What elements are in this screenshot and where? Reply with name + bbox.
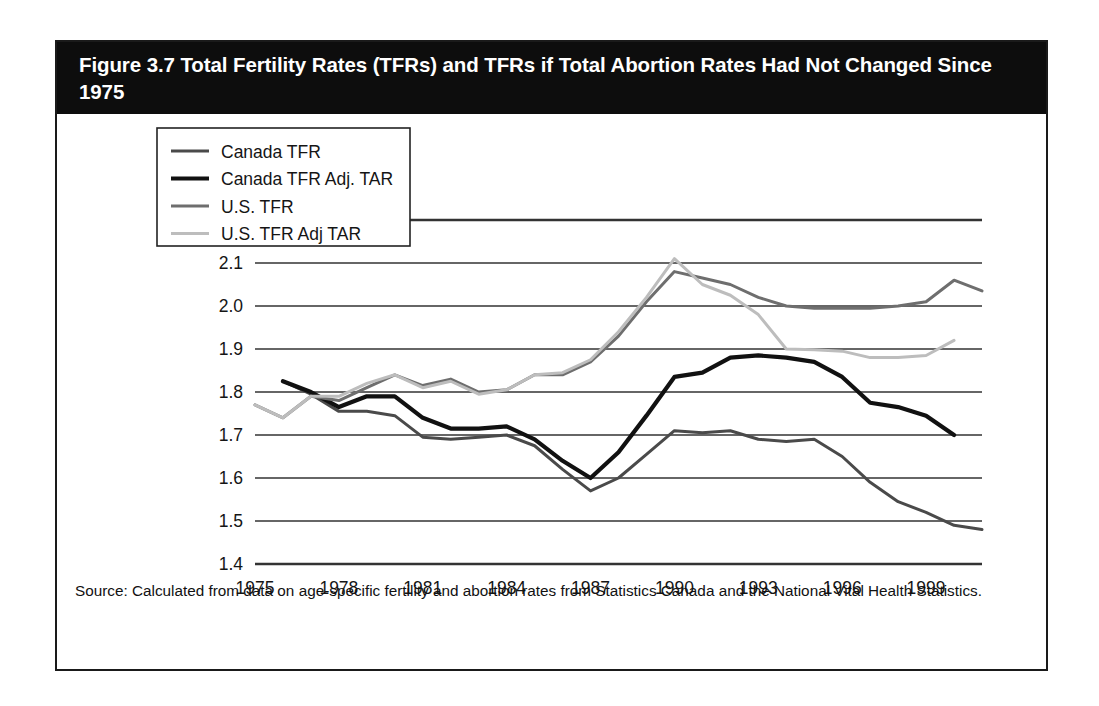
y-tick-label: 1.5: [219, 511, 243, 531]
legend-label: Canada TFR Adj. TAR: [221, 169, 393, 189]
figure-title-band: Figure 3.7 Total Fertility Rates (TFRs) …: [57, 42, 1046, 114]
chart-legend: Canada TFRCanada TFR Adj. TARU.S. TFRU.S…: [157, 128, 410, 246]
y-axis-tick-labels: 1.41.51.61.71.81.92.02.12.2: [219, 210, 244, 574]
series-line: [283, 355, 954, 478]
data-series-group: [255, 259, 982, 530]
fertility-rate-line-chart: 1.41.51.61.71.81.92.02.12.2 197519781981…: [57, 114, 1046, 644]
y-tick-label: 1.7: [219, 425, 243, 445]
series-line: [255, 259, 954, 418]
y-tick-label: 1.8: [219, 382, 243, 402]
y-tick-label: 1.6: [219, 468, 243, 488]
legend-label: U.S. TFR Adj TAR: [221, 224, 361, 244]
figure-page: Figure 3.7 Total Fertility Rates (TFRs) …: [0, 0, 1099, 706]
legend-label: U.S. TFR: [221, 197, 294, 217]
y-tick-label: 2.1: [219, 253, 243, 273]
gridlines-group: [255, 220, 982, 564]
y-tick-label: 2.0: [219, 296, 244, 316]
legend-label: Canada TFR: [221, 142, 321, 162]
figure-frame: Figure 3.7 Total Fertility Rates (TFRs) …: [55, 40, 1048, 671]
y-tick-label: 1.4: [219, 554, 244, 574]
y-tick-label: 1.9: [219, 339, 243, 359]
figure-title: Figure 3.7 Total Fertility Rates (TFRs) …: [79, 51, 1028, 106]
source-note: Source: Calculated from data on age-spec…: [75, 580, 1020, 602]
